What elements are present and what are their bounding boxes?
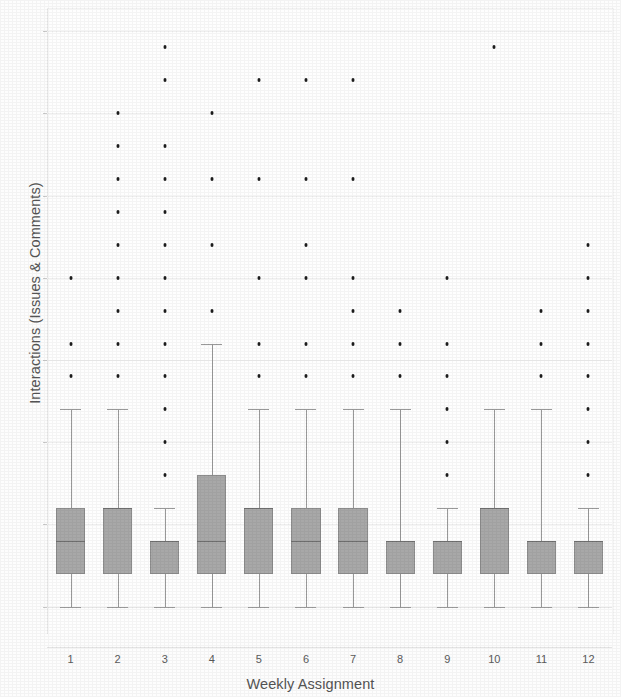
lower-whisker-cap [578, 607, 599, 608]
x-axis-tick-label: 1 [51, 653, 91, 665]
outlier-point [587, 243, 590, 247]
x-axis-tick-label: 2 [98, 653, 138, 665]
outlier-point [587, 342, 590, 346]
x-axis-tick-label: 7 [333, 653, 373, 665]
x-axis-tick-label: 8 [380, 653, 420, 665]
x-axis-line [47, 647, 612, 648]
y-axis-title: Interactions (Issues & Comments) [27, 163, 43, 423]
boxplot-group [47, 8, 612, 633]
median-line [574, 541, 603, 542]
plot-area: 0.02.55.07.510.012.515.017.5 12345678910… [47, 8, 612, 633]
x-axis-tick-label: 4 [192, 653, 232, 665]
x-axis-tick-label: 5 [239, 653, 279, 665]
x-axis-tick-label: 10 [474, 653, 514, 665]
outlier-point [587, 407, 590, 411]
outlier-point [587, 309, 590, 313]
lower-whisker [588, 574, 589, 607]
outlier-point [587, 276, 590, 280]
outlier-point [587, 374, 590, 378]
upper-whisker [588, 508, 589, 541]
x-axis-title: Weekly Assignment [0, 676, 621, 692]
x-axis-tick-label: 6 [286, 653, 326, 665]
upper-whisker-cap [578, 508, 599, 509]
x-axis-tick-label: 3 [145, 653, 185, 665]
outlier-point [587, 473, 590, 477]
box [574, 541, 603, 574]
boxplot-figure: Interactions (Issues & Comments) 0.02.55… [0, 0, 621, 697]
outlier-point [587, 440, 590, 444]
x-axis-tick-label: 9 [427, 653, 467, 665]
x-axis-tick-label: 12 [568, 653, 608, 665]
x-axis-tick-label: 11 [521, 653, 561, 665]
